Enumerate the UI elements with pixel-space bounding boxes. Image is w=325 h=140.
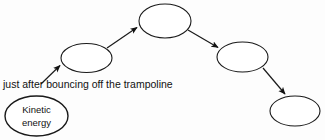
node-ellipse-5[interactable] [270, 96, 320, 126]
node-ellipse-4[interactable] [217, 42, 268, 72]
node-ellipse-2[interactable] [61, 44, 112, 73]
kinetic-energy-label-line2: energy [22, 117, 51, 128]
arrow-node3-to-node4 [188, 30, 218, 48]
trampoline-caption: just after bouncing off the trampoline [2, 78, 173, 90]
arrow-node2-to-node3 [107, 28, 137, 49]
kinetic-energy-label-line1: Kinetic [22, 104, 51, 115]
arrow-node4-to-node5 [263, 68, 285, 94]
kinetic-energy-ellipse[interactable] [5, 96, 68, 136]
diagram-svg: Kinetic energy just after bouncing off t… [0, 0, 325, 140]
node-ellipse-3[interactable] [139, 4, 191, 38]
diagram-canvas: Kinetic energy just after bouncing off t… [0, 0, 325, 140]
